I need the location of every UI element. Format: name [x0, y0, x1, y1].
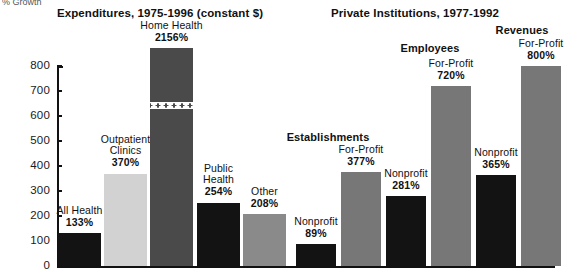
bar-name: For-Profit [418, 58, 484, 70]
group-title-establishments: Establishments [283, 131, 373, 143]
y-axis-tick-label-800: 800 [0, 60, 50, 72]
bar-name: Nonprofit [463, 147, 529, 159]
y-axis-tick-label-600: 600 [0, 110, 50, 122]
section-title-private-institutions: Private Institutions, 1977-1992 [300, 7, 530, 19]
bar-label: For-Profit720% [418, 58, 484, 82]
bar-employees-nonprofit [386, 196, 426, 266]
bar-label: Nonprofit89% [283, 216, 349, 240]
bar-employees-for-profit [431, 86, 471, 266]
y-axis-tick-label-500: 500 [0, 135, 50, 147]
y-axis-tick-label-300: 300 [0, 185, 50, 197]
bar-value-label: 377% [328, 156, 394, 168]
bar-label: For-Profit377% [328, 144, 394, 168]
bar-label: Nonprofit365% [463, 147, 529, 171]
bar-establishments-nonprofit [296, 244, 336, 266]
y-axis-tick-label-700: 700 [0, 85, 50, 97]
group-title-employees: Employees [385, 42, 475, 54]
section-title-expenditures: Expenditures, 1975-1996 (constant $) [55, 7, 265, 19]
bar-revenues-for-profit [521, 66, 561, 266]
bar-revenues-nonprofit [476, 175, 516, 266]
group-title-revenues: Revenues [477, 24, 567, 36]
bar-name: For-Profit [328, 144, 394, 156]
y-axis-tick-label-0: 0 [0, 260, 50, 272]
bar-value-label: 281% [373, 180, 439, 192]
bar-home-health [150, 48, 193, 266]
bar-value-label: 800% [508, 50, 571, 62]
y-axis-tick-300 [57, 190, 62, 192]
bar-public-health [197, 203, 240, 267]
bar-name: Nonprofit [283, 216, 349, 228]
bar-value-label: 89% [283, 228, 349, 240]
bar-value-label: 208% [230, 198, 299, 210]
bar-name: For-Profit [508, 38, 571, 50]
y-axis-tick-800 [57, 65, 62, 67]
y-axis-tick-label-100: 100 [0, 235, 50, 247]
growth-bar-chart: % Growth Expenditures, 1975-1996 (consta… [0, 0, 571, 277]
bar-label: For-Profit800% [508, 38, 571, 62]
bar-outpatient-clinics [104, 174, 147, 267]
bar-label: Home Health2156% [137, 20, 206, 44]
bar-label: Other208% [230, 186, 299, 210]
bar-value-label: 720% [418, 70, 484, 82]
axis-break-zigzag [150, 102, 193, 109]
bar-value-label: 365% [463, 159, 529, 171]
y-axis-tick-500 [57, 140, 62, 142]
bar-other [243, 214, 286, 266]
x-axis-baseline [57, 266, 555, 268]
y-axis-tick-600 [57, 115, 62, 117]
bar-all-health [58, 233, 101, 266]
y-axis-tick-700 [57, 90, 62, 92]
y-axis-tick-label-200: 200 [0, 210, 50, 222]
bar-name: Other [230, 186, 299, 198]
bar-value-label: 2156% [137, 32, 206, 44]
bar-name: Nonprofit [373, 168, 439, 180]
bar-name: Home Health [137, 20, 206, 32]
corner-note: % Growth [2, 0, 42, 7]
bar-label: Nonprofit281% [373, 168, 439, 192]
y-axis-tick-label-400: 400 [0, 160, 50, 172]
y-axis-tick-400 [57, 165, 62, 167]
